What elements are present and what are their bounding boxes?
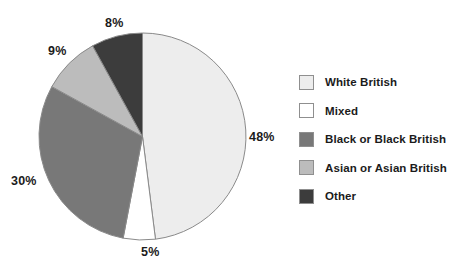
legend-swatch-icon	[299, 132, 314, 147]
slice-label-asian-british: 9%	[48, 44, 66, 58]
legend-item[interactable]: Mixed	[299, 97, 449, 126]
legend-item-label: Asian or Asian British	[325, 162, 447, 174]
slice-label-other: 8%	[105, 16, 123, 30]
legend-item-label: Mixed	[325, 105, 358, 117]
pie-svg: White British 48%Mixed 5%Black or Black …	[0, 0, 290, 271]
pie-slices: White British 48%Mixed 5%Black or Black …	[39, 33, 246, 240]
legend-item[interactable]: Asian or Asian British	[299, 154, 449, 183]
pie-chart: White British 48%Mixed 5%Black or Black …	[0, 0, 455, 271]
legend-item[interactable]: Other	[299, 182, 449, 211]
legend-item[interactable]: White British	[299, 68, 449, 97]
slice-label-black-british: 30%	[11, 174, 37, 188]
legend-item[interactable]: Black or Black British	[299, 125, 449, 154]
legend-item-label: White British	[325, 76, 397, 88]
legend-swatch-icon	[299, 103, 314, 118]
pie-slice[interactable]: White British 48%	[143, 33, 246, 239]
legend-item-label: Black or Black British	[325, 133, 446, 145]
legend: White BritishMixedBlack or Black British…	[299, 68, 449, 211]
legend-item-label: Other	[325, 190, 356, 202]
pie-plot-area: White British 48%Mixed 5%Black or Black …	[0, 0, 290, 271]
legend-swatch-icon	[299, 160, 314, 175]
slice-label-white-british: 48%	[249, 130, 275, 144]
legend-swatch-icon	[299, 75, 314, 90]
slice-label-mixed: 5%	[141, 245, 159, 259]
legend-swatch-icon	[299, 189, 314, 204]
